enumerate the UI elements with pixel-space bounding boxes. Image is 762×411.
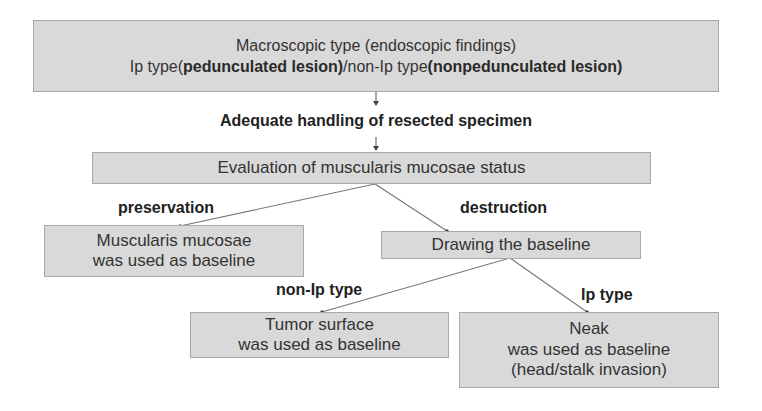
edge-ip-type xyxy=(510,258,587,312)
ip-type-text: Ip type( xyxy=(130,58,183,75)
macroscopic-title: Macroscopic type (endoscopic findings) xyxy=(236,36,516,55)
macroscopic-subtitle: Ip type(pedunculated lesion)/non-Ip type… xyxy=(130,57,623,76)
destruction-label: destruction xyxy=(460,199,547,217)
nonpedunculated-text: (nonpedunculated lesion) xyxy=(428,58,623,75)
muscularis-mucosae-box: Muscularis mucosae was used as baseline xyxy=(44,225,304,277)
evaluation-box: Evaluation of muscularis mucosae status xyxy=(92,152,651,184)
tumor-line2: was used as baseline xyxy=(238,335,401,355)
mm-line1: Muscularis mucosae xyxy=(97,231,252,251)
edge-destruction xyxy=(375,184,447,231)
neak-line1: Neak xyxy=(569,319,609,339)
ip-type-label: Ip type xyxy=(581,286,633,304)
preservation-label: preservation xyxy=(118,199,214,217)
evaluation-text: Evaluation of muscularis mucosae status xyxy=(217,158,525,178)
non-ip-type-text: /non-Ip type xyxy=(343,58,428,75)
drawing-baseline-box: Drawing the baseline xyxy=(381,231,641,259)
mm-line2: was used as baseline xyxy=(93,251,256,271)
neak-box: Neak was used as baseline (head/stalk in… xyxy=(459,312,719,388)
non-ip-type-label: non-Ip type xyxy=(276,281,362,299)
tumor-line1: Tumor surface xyxy=(265,315,374,335)
drawing-text: Drawing the baseline xyxy=(432,235,591,255)
neak-line2: was used as baseline xyxy=(508,340,671,360)
macroscopic-type-box: Macroscopic type (endoscopic findings) I… xyxy=(33,20,719,92)
neak-line3: (head/stalk invasion) xyxy=(511,360,667,380)
tumor-surface-box: Tumor surface was used as baseline xyxy=(190,312,449,358)
adequate-handling-label: Adequate handling of resected specimen xyxy=(160,112,592,130)
pedunculated-text: pedunculated lesion) xyxy=(183,58,343,75)
